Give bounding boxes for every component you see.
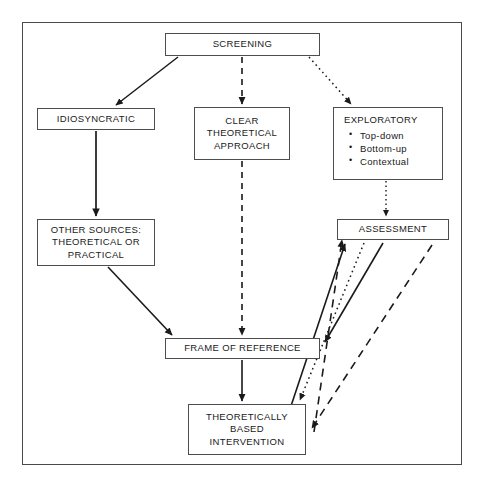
node-theoretically-based-line2: BASED — [230, 423, 264, 436]
flowchart-diagram: SCREENING IDIOSYNCRATIC CLEAR THEORETICA… — [0, 0, 484, 488]
node-screening-label: SCREENING — [213, 38, 273, 51]
exploratory-bullet-list: Top-down Bottom-up Contextual — [344, 129, 409, 168]
node-other-sources-line3: PRACTICAL — [68, 249, 124, 262]
node-other-sources-line2: THEORETICAL OR — [52, 236, 140, 249]
node-other-sources[interactable]: OTHER SOURCES: THEORETICAL OR PRACTICAL — [37, 219, 155, 266]
node-exploratory-title: EXPLORATORY — [344, 114, 418, 127]
node-clear-theoretical-line1: CLEAR — [225, 115, 258, 128]
list-item: Top-down — [360, 129, 409, 142]
node-theoretically-based-line1: THEORETICALLY — [206, 411, 288, 424]
node-theoretically-based-line3: INTERVENTION — [210, 436, 285, 449]
node-idiosyncratic-label: IDIOSYNCRATIC — [57, 113, 135, 126]
node-frame-of-reference-label: FRAME OF REFERENCE — [184, 342, 301, 355]
node-screening[interactable]: SCREENING — [165, 33, 320, 56]
node-other-sources-line1: OTHER SOURCES: — [51, 224, 141, 237]
node-assessment-label: ASSESSMENT — [359, 223, 427, 236]
node-frame-of-reference[interactable]: FRAME OF REFERENCE — [165, 338, 320, 359]
node-clear-theoretical-approach[interactable]: CLEAR THEORETICAL APPROACH — [194, 107, 290, 160]
node-clear-theoretical-line2: THEORETICAL — [207, 127, 277, 140]
node-theoretically-based-intervention[interactable]: THEORETICALLY BASED INTERVENTION — [188, 404, 306, 455]
node-clear-theoretical-line3: APPROACH — [214, 140, 270, 153]
node-exploratory[interactable]: EXPLORATORY Top-down Bottom-up Contextua… — [333, 107, 443, 180]
list-item: Bottom-up — [360, 142, 409, 155]
node-idiosyncratic[interactable]: IDIOSYNCRATIC — [37, 108, 155, 130]
list-item: Contextual — [360, 155, 409, 168]
node-assessment[interactable]: ASSESSMENT — [337, 219, 449, 240]
